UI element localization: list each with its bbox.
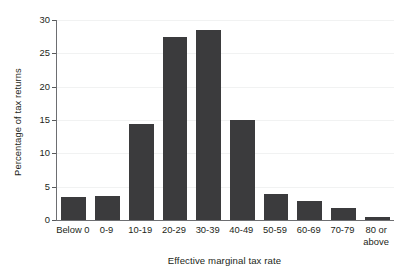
bar	[331, 208, 356, 220]
y-tick-label: 20	[30, 82, 50, 92]
x-tick-label-line1: 80 or	[356, 224, 396, 236]
bar	[95, 196, 120, 220]
y-tick-mark	[52, 20, 56, 21]
bar	[196, 30, 221, 220]
plot-area	[56, 20, 394, 221]
y-tick-label: 5	[30, 182, 50, 192]
y-tick-mark	[52, 53, 56, 54]
y-tick-label: 10	[30, 148, 50, 158]
y-tick-mark	[52, 87, 56, 88]
y-tick-label: 15	[30, 115, 50, 125]
y-tick-label: 0	[30, 215, 50, 225]
bar	[297, 201, 322, 220]
y-axis-title: Percentage of tax returns	[9, 12, 27, 232]
bar	[230, 120, 255, 220]
y-tick-label: 30	[30, 15, 50, 25]
y-tick-mark	[52, 120, 56, 121]
y-axis-tick-labels: 051015202530	[27, 0, 50, 277]
bar	[129, 124, 154, 220]
bar	[365, 217, 390, 220]
y-tick-mark	[52, 153, 56, 154]
bar	[264, 194, 289, 220]
y-tick-label: 25	[30, 48, 50, 58]
x-axis-title: Effective marginal tax rate	[56, 255, 393, 266]
y-tick-mark	[52, 220, 56, 221]
bar	[61, 197, 86, 220]
x-axis-tick-labels: Below 00-910-1920-2930-3940-4950-5960-69…	[56, 224, 393, 254]
bar	[163, 37, 188, 220]
bar-chart-figure: Percentage of tax returns 051015202530 B…	[0, 0, 402, 277]
x-tick-label-line2: above	[356, 236, 396, 248]
bars-layer	[57, 20, 394, 220]
x-tick-label: 80 orabove	[356, 224, 396, 247]
y-tick-mark	[52, 187, 56, 188]
